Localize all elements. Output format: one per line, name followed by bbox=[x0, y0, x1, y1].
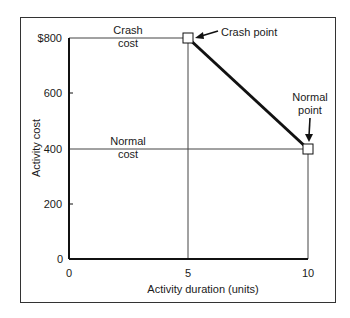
y-tick-label: 0 bbox=[57, 253, 63, 265]
crash-point-marker bbox=[183, 33, 193, 43]
y-tick-label: $800 bbox=[38, 32, 62, 44]
y-tick-label: 200 bbox=[44, 198, 62, 210]
arrow-head-icon bbox=[305, 134, 313, 142]
x-axis-label: Activity duration (units) bbox=[147, 283, 258, 295]
normal-point-arrow bbox=[309, 118, 310, 136]
y-axis-label: Activity cost bbox=[30, 119, 42, 177]
x-tick-label: 10 bbox=[302, 267, 314, 279]
normal-point-marker bbox=[303, 144, 313, 154]
crash-point-label: Crash point bbox=[221, 26, 277, 38]
x-tick-label: 5 bbox=[185, 267, 191, 279]
normal-cost-label: cost bbox=[118, 148, 138, 160]
chart: $800 600 400 200 0 0 5 10 Activity durat… bbox=[0, 0, 350, 318]
normal-cost-label: Normal bbox=[110, 135, 145, 147]
cost-time-line bbox=[188, 38, 308, 149]
crash-cost-label: cost bbox=[118, 37, 138, 49]
normal-point-label: Normal bbox=[292, 91, 327, 103]
arrow-head-icon bbox=[195, 32, 204, 39]
normal-point-label: point bbox=[298, 104, 322, 116]
y-tick-label: 600 bbox=[44, 87, 62, 99]
crash-cost-label: Crash bbox=[113, 24, 142, 36]
x-tick-label: 0 bbox=[66, 267, 72, 279]
y-tick-label: 400 bbox=[44, 143, 62, 155]
